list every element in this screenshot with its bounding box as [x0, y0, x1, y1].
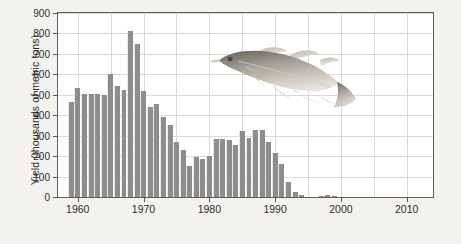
y-tick — [53, 95, 58, 96]
bar — [278, 164, 284, 197]
y-tick-label: 700 — [33, 48, 50, 59]
bar — [206, 156, 212, 197]
y-tick-label: 900 — [33, 8, 50, 19]
bar — [160, 117, 166, 197]
y-tick — [53, 33, 58, 34]
x-tick-label: 2010 — [395, 203, 418, 215]
y-tick-label: 400 — [33, 110, 50, 121]
cod-yield-chart-figure: Yield (thousands of metric tons) 0100200… — [0, 0, 461, 244]
gridline-vertical — [308, 13, 309, 197]
bar — [74, 88, 80, 197]
x-tick-label: 1970 — [132, 203, 155, 215]
bar — [153, 104, 159, 197]
gridline-vertical — [374, 13, 375, 197]
plot-area: 0100200300400500600700800900 — [57, 12, 434, 198]
bar — [68, 102, 74, 197]
y-tick-label: 200 — [33, 151, 50, 162]
bar — [292, 192, 298, 197]
gridline-horizontal — [58, 54, 433, 55]
x-tick — [275, 197, 276, 202]
bar — [101, 95, 107, 197]
bar — [81, 94, 87, 197]
bar — [331, 196, 337, 197]
bar — [186, 166, 192, 197]
bar — [298, 195, 304, 197]
bar — [226, 140, 232, 197]
x-tick — [341, 197, 342, 202]
x-tick-label: 1980 — [198, 203, 221, 215]
bar — [199, 159, 205, 197]
gridline-vertical — [407, 13, 408, 197]
y-tick-label: 600 — [33, 69, 50, 80]
y-tick-label: 500 — [33, 89, 50, 100]
x-tick — [209, 197, 210, 202]
x-tick-label: 1960 — [66, 203, 89, 215]
bar — [285, 182, 291, 197]
bar — [94, 94, 100, 197]
y-tick — [53, 177, 58, 178]
bar — [147, 107, 153, 197]
y-tick — [53, 136, 58, 137]
bar — [173, 142, 179, 197]
bar — [246, 138, 252, 197]
y-tick-label: 800 — [33, 28, 50, 39]
bar — [239, 131, 245, 197]
y-tick-label: 100 — [33, 171, 50, 182]
gridline-horizontal — [58, 33, 433, 34]
y-tick — [53, 197, 58, 198]
gridline-horizontal — [58, 13, 433, 14]
bar — [140, 91, 146, 197]
y-tick-label: 0 — [44, 192, 50, 203]
bar — [88, 94, 94, 197]
bar — [134, 44, 140, 197]
bar — [219, 139, 225, 197]
bar — [114, 86, 120, 197]
bar — [265, 142, 271, 197]
bar — [107, 74, 113, 197]
bar — [232, 145, 238, 197]
bar — [259, 130, 265, 197]
x-tick — [407, 197, 408, 202]
y-tick — [53, 156, 58, 157]
bar — [180, 150, 186, 197]
x-tick — [144, 197, 145, 202]
y-tick — [53, 13, 58, 14]
y-tick — [53, 54, 58, 55]
gridline-horizontal — [58, 74, 433, 75]
y-tick-label: 300 — [33, 130, 50, 141]
bar — [213, 139, 219, 197]
x-tick-label: 1990 — [263, 203, 286, 215]
bar — [324, 195, 330, 197]
bar — [318, 196, 324, 197]
bar — [272, 153, 278, 197]
bar — [167, 125, 173, 197]
x-tick — [78, 197, 79, 202]
bar — [127, 31, 133, 197]
y-tick — [53, 74, 58, 75]
gridline-vertical — [341, 13, 342, 197]
x-tick-label: 2000 — [329, 203, 352, 215]
bar — [252, 130, 258, 197]
bar — [121, 90, 127, 197]
y-tick — [53, 115, 58, 116]
bar — [193, 157, 199, 197]
